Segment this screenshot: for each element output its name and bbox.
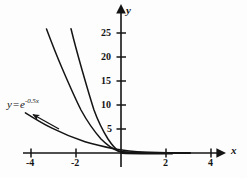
curve-merged-tail (122, 153, 172, 154)
curve-exp-one-five (47, 29, 191, 153)
y-tick-label-20: 20 (101, 52, 111, 62)
y-tick-label-15: 15 (101, 76, 111, 86)
equation-operator: = (12, 98, 20, 110)
x-tick-label-2: 2 (163, 158, 168, 168)
equation-exponent: -0.5x (25, 97, 39, 105)
x-axis-label: x (231, 145, 237, 156)
curve-exp-two-five (71, 29, 190, 153)
exponential-decay-figure: y=e-0.5x -4 -2 2 4 5 10 15 20 25 y x (0, 0, 247, 178)
y-tick-label-5: 5 (107, 124, 112, 134)
x-tick-label--2: -2 (71, 158, 79, 168)
plot-canvas (0, 0, 247, 178)
x-tick-label-4: 4 (208, 158, 213, 168)
y-axis-label: y (126, 5, 131, 16)
x-tick-label--4: -4 (26, 158, 34, 168)
annotation-pointer-arrow (33, 115, 59, 130)
y-tick-label-10: 10 (101, 100, 111, 110)
curve-equation-label: y=e-0.5x (7, 98, 39, 110)
y-tick-label-25: 25 (101, 28, 111, 38)
